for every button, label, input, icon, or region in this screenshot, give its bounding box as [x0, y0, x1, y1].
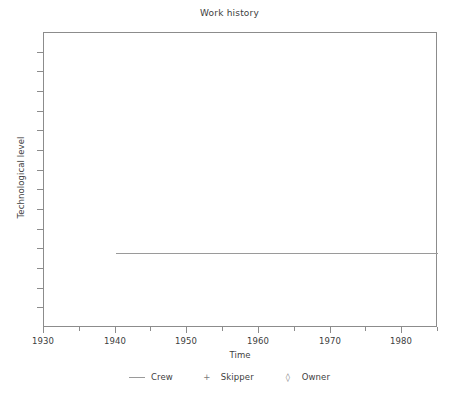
y-axis-tick — [37, 189, 43, 190]
y-axis-tick — [37, 170, 43, 171]
x-axis-tick-major — [186, 327, 187, 333]
y-axis-tick — [37, 150, 43, 151]
x-axis-tick-minor — [437, 327, 438, 331]
x-axis-tick-label: 1940 — [95, 336, 135, 346]
y-axis-tick — [37, 268, 43, 269]
legend-label: Crew — [151, 372, 173, 382]
legend-item[interactable]: Crew — [129, 372, 173, 382]
chart-title: Work history — [0, 8, 459, 18]
series-line-crew — [116, 253, 438, 254]
x-axis-tick-minor — [222, 327, 223, 331]
legend-marker-diamond-icon: ◊ — [280, 372, 296, 382]
y-axis-tick — [37, 52, 43, 53]
x-axis-tick-major — [401, 327, 402, 333]
y-axis-label: Technological level — [14, 30, 28, 325]
y-axis-tick — [37, 209, 43, 210]
y-axis-tick — [37, 130, 43, 131]
x-axis-tick-minor — [150, 327, 151, 331]
y-axis-tick — [37, 248, 43, 249]
legend-item[interactable]: ◊Owner — [280, 372, 330, 382]
legend-label: Owner — [302, 372, 330, 382]
x-axis-tick-major — [258, 327, 259, 333]
legend-marker-line-icon — [129, 377, 145, 378]
x-axis-tick-major — [330, 327, 331, 333]
y-axis-tick — [37, 229, 43, 230]
y-axis-tick — [37, 111, 43, 112]
x-axis-tick-major — [43, 327, 44, 333]
x-axis-tick-label: 1950 — [166, 336, 206, 346]
x-axis-tick-major — [115, 327, 116, 333]
y-axis-tick — [37, 91, 43, 92]
x-axis-tick-label: 1980 — [381, 336, 421, 346]
legend-label: Skipper — [221, 372, 254, 382]
x-axis-tick-minor — [79, 327, 80, 331]
y-axis-tick — [37, 307, 43, 308]
x-axis-tick-minor — [365, 327, 366, 331]
y-axis-tick — [37, 288, 43, 289]
x-axis-tick-minor — [294, 327, 295, 331]
x-axis-tick-label: 1960 — [238, 336, 278, 346]
x-axis-tick-label: 1970 — [310, 336, 350, 346]
y-axis-tick — [37, 71, 43, 72]
legend-item[interactable]: +Skipper — [199, 372, 254, 382]
x-axis-tick-label: 1930 — [23, 336, 63, 346]
chart-figure: Work history Technological level 1930194… — [0, 0, 459, 402]
plot-area — [43, 32, 437, 327]
x-axis-label: Time — [43, 350, 437, 360]
legend-marker-plus-icon: + — [199, 372, 215, 382]
chart-legend: Crew+Skipper◊Owner — [0, 372, 459, 382]
